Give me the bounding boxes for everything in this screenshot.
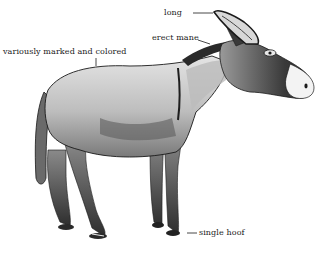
label-hoof: single hoof bbox=[199, 228, 245, 237]
leader-mane bbox=[198, 40, 210, 44]
nostril bbox=[304, 84, 307, 89]
label-ears: long bbox=[164, 8, 182, 17]
muzzle bbox=[285, 64, 314, 99]
front-hoof-back bbox=[152, 222, 164, 228]
hind-hoof-back bbox=[58, 224, 74, 230]
donkey-diagram: long erect mane variously marked and col… bbox=[0, 0, 320, 258]
front-hoof-front bbox=[166, 230, 180, 236]
hind-leg-back bbox=[48, 150, 71, 226]
label-mane: erect mane bbox=[152, 33, 199, 42]
hind-hoof-front bbox=[89, 233, 107, 239]
label-coat: variously marked and colored bbox=[3, 47, 127, 56]
